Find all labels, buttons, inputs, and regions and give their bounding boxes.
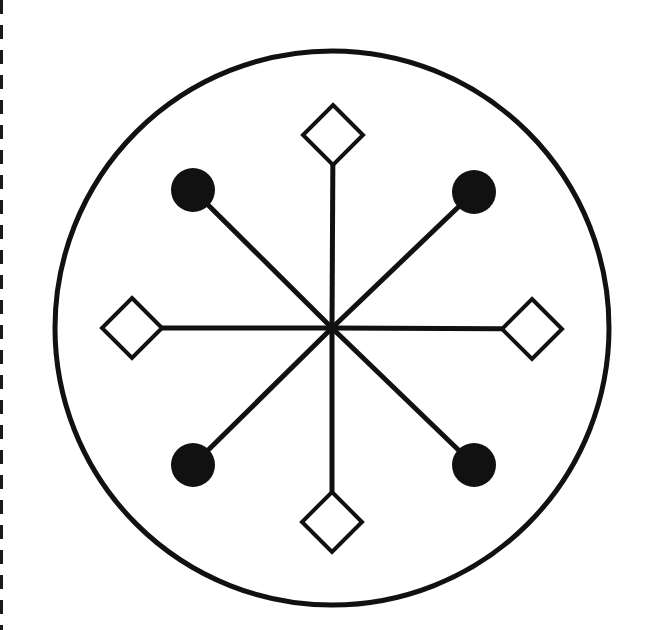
dot-down-right-icon [452, 443, 496, 487]
radial-symbol-diagram [0, 0, 648, 630]
diamond-left-icon [102, 298, 162, 358]
diamond-down-icon [302, 492, 362, 552]
spoke-up-right [332, 192, 474, 328]
spokes-group [162, 165, 502, 492]
spoke-right [332, 328, 502, 329]
hub-point [326, 322, 338, 334]
dot-up-left-icon [171, 168, 215, 212]
diamond-right-icon [502, 299, 562, 359]
spoke-down-left [193, 328, 332, 465]
spoke-down-right [332, 328, 474, 465]
dot-up-right-icon [452, 170, 496, 214]
diamond-up-icon [303, 105, 363, 165]
spoke-up [332, 165, 333, 328]
dot-down-left-icon [171, 443, 215, 487]
spoke-up-left [193, 190, 332, 328]
